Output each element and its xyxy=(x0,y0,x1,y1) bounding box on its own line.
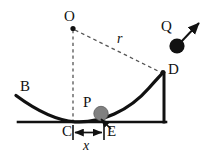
ball-at-p xyxy=(94,106,108,120)
label-launch-point: D xyxy=(168,62,179,77)
label-projectile: Q xyxy=(161,19,172,34)
diagram-canvas xyxy=(0,0,209,163)
velocity-arrow xyxy=(181,23,199,42)
label-radius: r xyxy=(117,32,122,46)
label-ball-position: P xyxy=(83,95,91,110)
label-displacement: x xyxy=(83,139,89,153)
label-displacement-foot: E xyxy=(107,124,116,139)
label-bottom-point: C xyxy=(62,124,72,139)
launch-point-dot xyxy=(161,70,166,75)
label-curve-left-end: B xyxy=(20,79,30,94)
physics-diagram: O r Q D B P C E x xyxy=(0,0,209,163)
center-point-dot xyxy=(70,26,75,31)
label-center-point: O xyxy=(64,9,75,24)
